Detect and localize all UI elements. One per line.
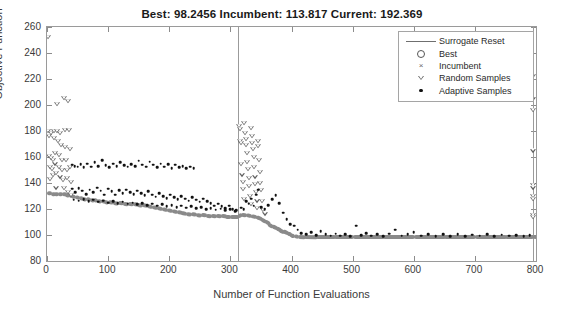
- x-tick-mark: [292, 256, 293, 261]
- random-sample-marker: [54, 103, 60, 107]
- adaptive-sample-marker: [493, 235, 496, 238]
- adaptive-sample-marker: [71, 188, 74, 191]
- x-tick-label: 600: [404, 264, 421, 275]
- adaptive-sample-marker: [86, 162, 89, 165]
- adaptive-sample-marker: [252, 204, 255, 207]
- x-tick-label: 200: [160, 264, 177, 275]
- x-tick-mark: [230, 256, 231, 261]
- adaptive-sample-marker: [388, 232, 391, 235]
- adaptive-sample-marker: [434, 235, 437, 238]
- adaptive-sample-marker: [88, 188, 91, 191]
- adaptive-sample-marker: [148, 160, 151, 163]
- adaptive-sample-marker: [92, 191, 95, 194]
- adaptive-sample-marker: [114, 193, 117, 196]
- adaptive-sample-marker: [210, 207, 213, 210]
- random-sample-marker: [262, 212, 268, 216]
- adaptive-sample-marker: [118, 189, 121, 192]
- random-sample-marker: [244, 151, 250, 155]
- adaptive-sample-marker: [376, 233, 379, 236]
- adaptive-sample-marker: [185, 206, 188, 209]
- best-curve-segment: [533, 235, 536, 239]
- random-sample-marker: [53, 186, 59, 190]
- random-sample-marker: [249, 134, 255, 138]
- best-curve-segment: [383, 235, 415, 239]
- adaptive-sample-marker: [214, 208, 217, 211]
- random-sample-marker: [252, 175, 258, 179]
- random-sample-marker: [246, 184, 252, 188]
- x-tick-mark: [414, 256, 415, 261]
- x-tick-mark: [292, 27, 293, 32]
- random-sample-marker: [244, 160, 250, 164]
- x-tick-mark: [353, 27, 354, 32]
- legend-label: Surrogate Reset: [439, 35, 505, 47]
- random-sample-marker: [245, 168, 251, 172]
- adaptive-sample-marker: [508, 234, 511, 237]
- adaptive-sample-marker: [82, 198, 85, 201]
- adaptive-sample-marker: [191, 196, 194, 199]
- y-tick-mark: [47, 183, 52, 184]
- random-sample-marker: [47, 35, 51, 39]
- adaptive-sample-marker: [73, 199, 76, 202]
- adaptive-sample-marker: [192, 167, 195, 170]
- random-sample-marker: [530, 149, 536, 153]
- random-sample-marker: [68, 180, 74, 184]
- adaptive-sample-marker: [130, 163, 133, 166]
- adaptive-sample-marker: [355, 225, 358, 228]
- adaptive-sample-marker: [205, 208, 208, 211]
- adaptive-sample-marker: [296, 229, 299, 232]
- adaptive-sample-marker: [229, 208, 232, 211]
- circle-open-icon: [403, 48, 439, 60]
- adaptive-sample-marker: [184, 197, 187, 200]
- adaptive-sample-marker: [107, 188, 110, 191]
- adaptive-sample-marker: [500, 233, 503, 236]
- adaptive-sample-marker: [320, 230, 323, 233]
- adaptive-sample-marker: [180, 204, 183, 207]
- adaptive-sample-marker: [112, 200, 115, 203]
- adaptive-sample-marker: [529, 234, 532, 237]
- adaptive-sample-marker: [310, 231, 313, 234]
- x-tick-mark: [230, 27, 231, 32]
- adaptive-sample-marker: [112, 162, 115, 165]
- adaptive-sample-marker: [129, 191, 132, 194]
- adaptive-sample-marker: [177, 198, 180, 201]
- y-tick-label: 140: [0, 177, 41, 188]
- y-tick-label: 160: [0, 151, 41, 162]
- adaptive-sample-marker: [329, 234, 332, 237]
- adaptive-sample-marker: [315, 234, 318, 237]
- x-tick-mark: [353, 256, 354, 261]
- random-sample-marker: [243, 137, 249, 141]
- adaptive-sample-marker: [77, 199, 80, 202]
- random-sample-marker: [66, 129, 72, 133]
- legend-label: Adaptive Samples: [439, 85, 512, 97]
- adaptive-sample-marker: [190, 205, 193, 208]
- adaptive-sample-marker: [420, 234, 423, 237]
- random-sample-marker: [530, 108, 536, 112]
- best-curve-segment: [316, 235, 336, 239]
- legend-label: Incumbent: [439, 60, 481, 72]
- adaptive-sample-marker: [170, 167, 173, 170]
- random-sample-marker: [246, 176, 252, 180]
- adaptive-sample-marker: [478, 234, 481, 237]
- y-tick-label: 180: [0, 125, 41, 136]
- adaptive-sample-marker: [213, 204, 216, 207]
- adaptive-sample-marker: [136, 190, 139, 193]
- random-sample-marker: [55, 139, 61, 143]
- y-tick-label: 260: [0, 21, 41, 32]
- legend-item-adaptive-samples: Adaptive Samples: [403, 85, 529, 97]
- adaptive-sample-marker: [97, 165, 100, 168]
- adaptive-sample-marker: [175, 206, 178, 209]
- adaptive-sample-marker: [141, 202, 144, 205]
- adaptive-sample-marker: [250, 197, 253, 200]
- adaptive-sample-marker: [210, 202, 213, 205]
- adaptive-sample-marker: [263, 208, 266, 211]
- y-tick-label: 80: [0, 255, 41, 266]
- adaptive-sample-marker: [101, 159, 104, 162]
- adaptive-sample-marker: [103, 193, 106, 196]
- adaptive-sample-marker: [206, 200, 209, 203]
- adaptive-sample-marker: [344, 233, 347, 236]
- adaptive-sample-marker: [159, 162, 162, 165]
- adaptive-sample-marker: [282, 212, 285, 215]
- adaptive-sample-marker: [522, 235, 525, 238]
- adaptive-sample-marker: [200, 206, 203, 209]
- adaptive-sample-marker: [162, 195, 165, 198]
